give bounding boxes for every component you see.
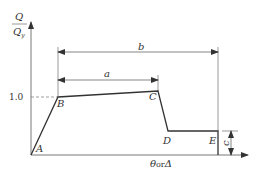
x-axis-label: θorΔ	[150, 158, 172, 169]
point-label-e: E	[208, 135, 217, 146]
dimension-c: c	[220, 131, 231, 155]
point-label-d: D	[162, 135, 171, 146]
point-label-b: B	[56, 98, 64, 109]
dimension-b: b	[58, 41, 218, 52]
y-axis-label: Q Qy	[12, 11, 27, 39]
dimension-c-label: c	[220, 140, 231, 146]
backbone-curve-diagram: Q Qy θorΔ 1.0 A B C D E b	[0, 0, 261, 174]
point-label-c: C	[149, 91, 157, 102]
point-label-a: A	[35, 143, 43, 154]
dimension-a: a	[58, 68, 158, 80]
dimension-b-label: b	[138, 41, 144, 52]
dimension-a-label: a	[104, 68, 110, 79]
y-tick-1-0: 1.0	[9, 92, 24, 102]
y-label-denominator: Qy	[13, 26, 25, 39]
y-label-numerator: Q	[15, 11, 23, 22]
